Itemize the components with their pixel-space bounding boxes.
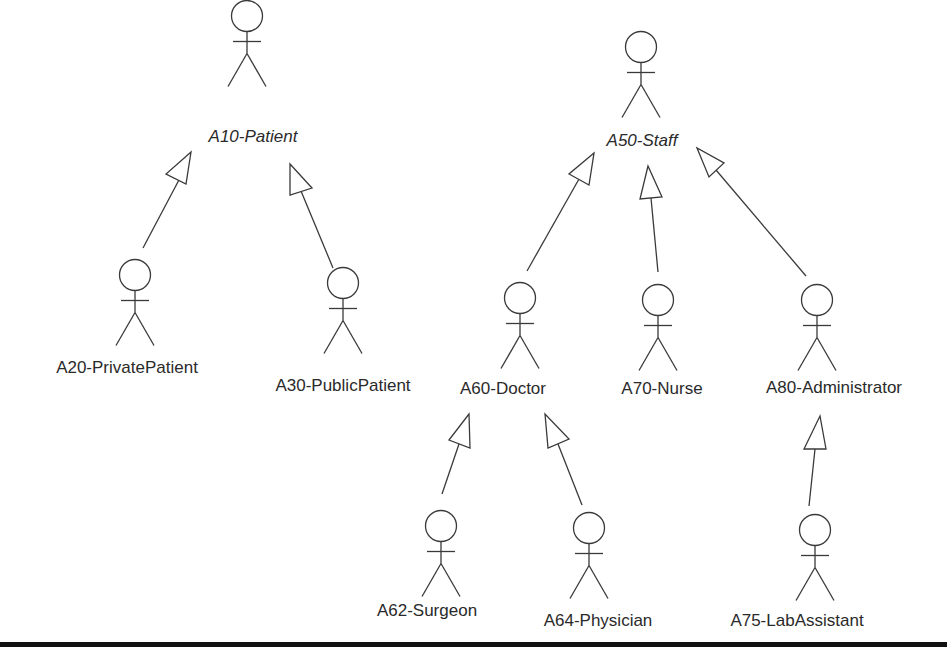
stick-figure-actor-icon — [622, 32, 660, 118]
actor-a70[interactable]: A70-Nurse — [621, 285, 702, 399]
hollow-triangle-arrowhead-icon — [640, 166, 662, 199]
generalization-line — [651, 198, 658, 272]
actor-a30[interactable]: A30-PublicPatient — [275, 268, 410, 396]
generalization-line — [809, 449, 815, 506]
actor-label: A60-Doctor — [460, 379, 546, 398]
generalization-line — [301, 191, 333, 268]
actor-label: A10-Patient — [208, 127, 299, 146]
stick-figure-actor-icon — [116, 260, 154, 346]
bottom-divider-rule — [0, 642, 947, 647]
actor-label: A20-PrivatePatient — [56, 358, 198, 377]
stick-figure-actor-icon — [796, 515, 834, 601]
actor-label: A75-LabAssistant — [730, 611, 864, 630]
hollow-triangle-arrowhead-icon — [697, 148, 724, 177]
generalization-a20-to-a10 — [143, 152, 191, 248]
stick-figure-actor-icon — [324, 268, 362, 354]
actor-a20[interactable]: A20-PrivatePatient — [56, 260, 198, 378]
hollow-triangle-arrowhead-icon — [166, 152, 191, 184]
stick-figure-actor-icon — [422, 511, 460, 597]
hollow-triangle-arrowhead-icon — [569, 153, 594, 185]
actor-label: A70-Nurse — [621, 379, 702, 398]
actor-a50[interactable]: A50-Staff — [606, 32, 680, 151]
actor-a75[interactable]: A75-LabAssistant — [730, 515, 864, 631]
hollow-triangle-arrowhead-icon — [804, 416, 826, 449]
generalization-a70-to-a50 — [640, 166, 662, 272]
generalization-line — [143, 178, 180, 248]
actor-a80[interactable]: A80-Administrator — [766, 285, 902, 398]
actor-a10[interactable]: A10-Patient — [208, 1, 299, 147]
actor-a60[interactable]: A60-Doctor — [460, 283, 546, 399]
stick-figure-actor-icon — [639, 285, 677, 371]
generalization-line — [716, 170, 806, 276]
generalization-a62-to-a60 — [442, 414, 470, 494]
generalization-line — [527, 179, 579, 271]
generalization-edges — [143, 148, 826, 506]
actor-label: A64-Physician — [544, 611, 653, 630]
generalization-a60-to-a50 — [527, 153, 594, 271]
stick-figure-actor-icon — [228, 1, 266, 87]
generalization-a64-to-a60 — [545, 414, 582, 505]
actor-label: A30-PublicPatient — [275, 376, 410, 395]
hollow-triangle-arrowhead-icon — [545, 414, 569, 448]
generalization-a80-to-a50 — [697, 148, 806, 276]
hollow-triangle-arrowhead-icon — [290, 164, 312, 195]
hollow-triangle-arrowhead-icon — [449, 414, 470, 448]
generalization-a75-to-a80 — [804, 416, 826, 506]
stick-figure-actor-icon — [570, 513, 608, 599]
generalization-line — [442, 444, 459, 494]
actor-a62[interactable]: A62-Surgeon — [377, 511, 477, 621]
generalization-line — [558, 444, 582, 505]
actor-hierarchy-diagram: A10-PatientA20-PrivatePatientA30-PublicP… — [0, 0, 947, 665]
actors-layer: A10-PatientA20-PrivatePatientA30-PublicP… — [56, 1, 902, 631]
stick-figure-actor-icon — [798, 285, 836, 371]
actor-a64[interactable]: A64-Physician — [544, 513, 653, 631]
stick-figure-actor-icon — [501, 283, 539, 369]
actor-label: A80-Administrator — [766, 378, 902, 397]
actor-label: A62-Surgeon — [377, 601, 477, 620]
actor-label: A50-Staff — [606, 131, 680, 150]
generalization-a30-to-a10 — [290, 164, 333, 268]
